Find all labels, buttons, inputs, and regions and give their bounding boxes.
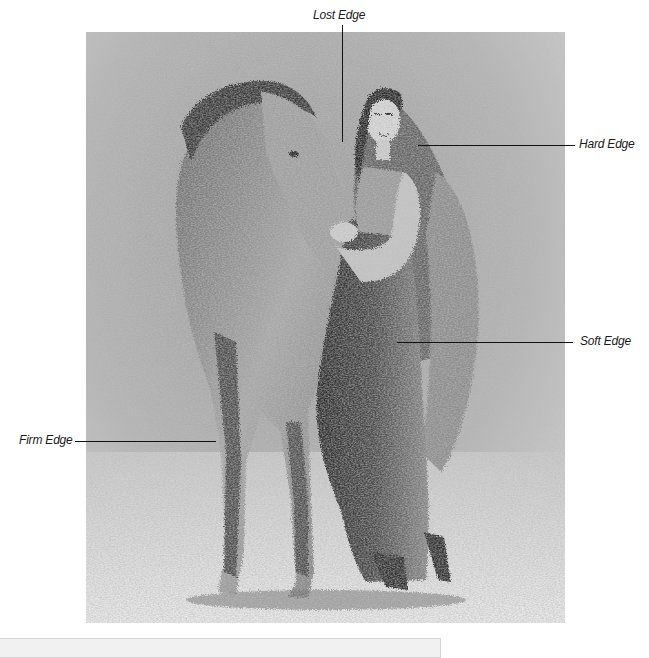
label-soft-edge: Soft Edge xyxy=(580,334,631,348)
clipped-top-text xyxy=(0,0,649,2)
caption-box xyxy=(0,638,441,658)
leader-line-lost-edge xyxy=(342,25,343,142)
leader-line-firm-edge xyxy=(75,441,216,442)
label-lost-edge: Lost Edge xyxy=(313,8,365,22)
label-hard-edge: Hard Edge xyxy=(579,137,635,151)
pencil-drawing-figure xyxy=(86,32,565,623)
leader-line-soft-edge xyxy=(397,342,573,343)
leader-line-hard-edge xyxy=(418,145,575,146)
label-firm-edge: Firm Edge xyxy=(19,433,73,447)
